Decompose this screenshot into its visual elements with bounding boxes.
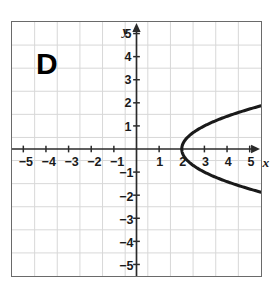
tick-label: −2 [87, 156, 101, 169]
tick-label: 2 [125, 97, 132, 110]
tick-label: 4 [125, 51, 132, 64]
tick-label: −3 [119, 214, 133, 227]
tick-label: 1 [125, 121, 132, 134]
tick-label: 1 [156, 156, 163, 169]
tick-label: −3 [64, 156, 78, 169]
parabola-path [182, 105, 261, 193]
tick-label: −5 [19, 156, 33, 169]
tick-label: 3 [202, 156, 209, 169]
coordinate-plane: D x y −5−4−3−2−11234554321−1−2−3−4−5 [11, 21, 262, 277]
x-axis-label: x [263, 156, 270, 170]
tick-label: 3 [125, 74, 132, 87]
tick-label: −4 [119, 237, 133, 250]
tick-label: −1 [119, 167, 133, 180]
panel-label: D [36, 49, 58, 79]
tick-label: −5 [119, 260, 133, 273]
tick-label: 2 [179, 156, 186, 169]
tick-label: 5 [248, 156, 255, 169]
tick-label: 4 [225, 156, 232, 169]
graph-figure: D x y −5−4−3−2−11234554321−1−2−3−4−5 [0, 0, 270, 297]
tick-label: 5 [125, 28, 132, 41]
tick-label: −2 [119, 191, 133, 204]
tick-label: −4 [42, 156, 56, 169]
